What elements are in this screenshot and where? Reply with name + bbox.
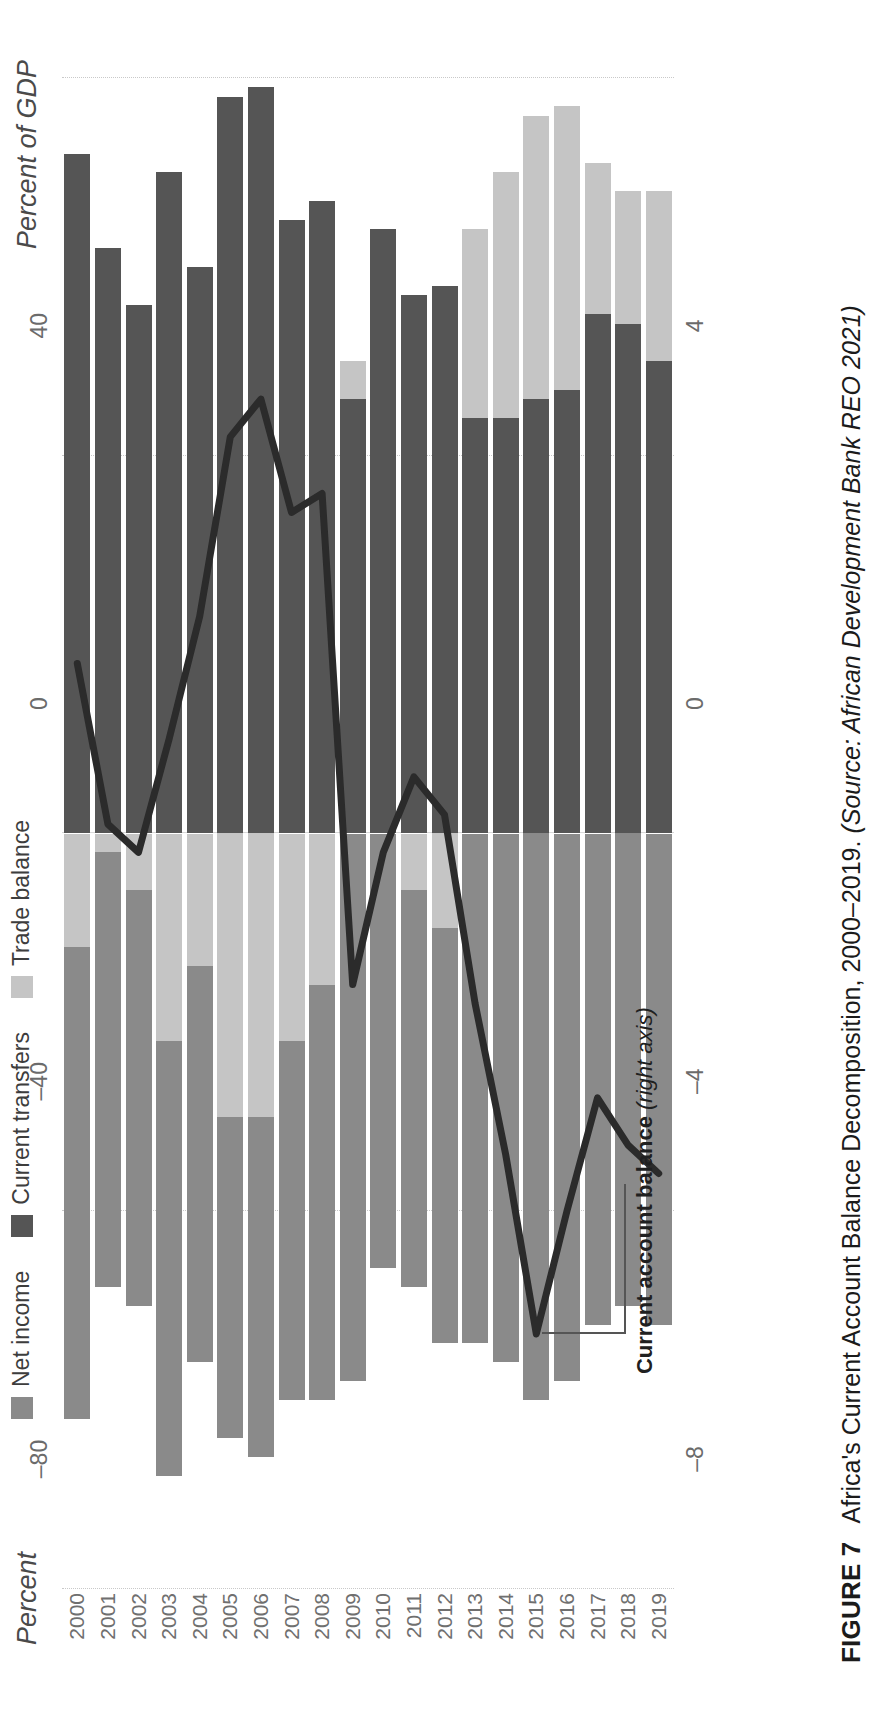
category-label-2015: 2015	[524, 1593, 548, 1640]
line-annotation: Current account balance (right axis)	[632, 1007, 658, 1374]
figure-title: Africa's Current Account Balance Decompo…	[837, 841, 865, 1524]
annotation-italic-text: (right axis)	[632, 1007, 657, 1110]
chart-area: Percent Percent of GDP Net incomeCurrent…	[0, 0, 790, 1719]
figure-page: Percent Percent of GDP Net incomeCurrent…	[0, 0, 873, 1719]
category-label-2007: 2007	[280, 1593, 304, 1640]
category-label-2001: 2001	[96, 1593, 120, 1640]
category-label-2006: 2006	[249, 1593, 273, 1640]
category-label-2004: 2004	[188, 1593, 212, 1640]
category-label-2009: 2009	[341, 1593, 365, 1640]
left-tick-label: –40	[26, 1062, 53, 1100]
left-axis-ticks: 80400–40–80	[26, 156, 56, 1459]
right-tick-label: –4	[682, 1068, 709, 1094]
annotation-leader-tail	[624, 1184, 626, 1334]
category-label-2003: 2003	[157, 1593, 181, 1640]
category-label-2000: 2000	[65, 1593, 89, 1640]
plot-area: 2000200120022003200420052006200720082009…	[62, 78, 674, 1589]
left-tick-label: 0	[26, 697, 53, 710]
right-tick-label: –8	[682, 1446, 709, 1472]
category-label-2008: 2008	[310, 1593, 334, 1640]
right-tick-label: 0	[682, 697, 709, 710]
figure-number: FIGURE 7	[836, 1541, 866, 1663]
category-label-2013: 2013	[463, 1593, 487, 1640]
category-label-2012: 2012	[433, 1593, 457, 1640]
category-label-2011: 2011	[402, 1593, 426, 1638]
category-label-2010: 2010	[371, 1593, 395, 1640]
annotation-bold-text: Current account balance	[632, 1110, 657, 1374]
left-tick-label: 40	[26, 313, 53, 339]
category-label-2005: 2005	[218, 1593, 242, 1640]
category-label-2019: 2019	[647, 1593, 671, 1640]
category-label-2017: 2017	[586, 1593, 610, 1640]
category-label-2016: 2016	[555, 1593, 579, 1640]
left-axis-title: Percent	[12, 1552, 43, 1645]
figure-caption: FIGURE 7Africa's Current Account Balance…	[836, 0, 867, 1719]
category-label-2018: 2018	[616, 1593, 640, 1640]
figure-source: (Source: African Development Bank REO 20…	[837, 305, 865, 834]
category-axis-labels: 2000200120022003200420052006200720082009…	[62, 1589, 674, 1635]
right-tick-label: 4	[682, 319, 709, 332]
category-label-2002: 2002	[127, 1593, 151, 1640]
right-axis-ticks: 840–4–8	[682, 156, 712, 1459]
category-label-2014: 2014	[494, 1593, 518, 1640]
annotation-leader-line	[542, 1182, 626, 1334]
rotated-figure-canvas: Percent Percent of GDP Net incomeCurrent…	[0, 0, 873, 1719]
left-tick-label: –80	[26, 1440, 53, 1478]
current-account-balance-line	[62, 78, 674, 1589]
